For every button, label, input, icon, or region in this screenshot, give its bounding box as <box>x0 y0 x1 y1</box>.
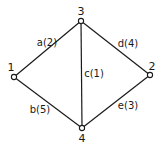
node-3 <box>78 18 83 23</box>
edge-e <box>82 75 150 128</box>
node-1 <box>11 74 16 79</box>
edge-c <box>81 21 82 128</box>
edges-group: a(2)b(5)c(1)d(4)e(3) <box>14 21 150 128</box>
node-2 <box>147 72 152 77</box>
node-label-1: 1 <box>8 61 15 74</box>
node-4 <box>79 125 84 130</box>
edge-label-e: e(3) <box>118 100 138 111</box>
edge-a <box>14 21 81 77</box>
node-label-4: 4 <box>79 132 86 145</box>
node-label-2: 2 <box>149 60 156 73</box>
edge-b <box>14 77 82 128</box>
node-label-3: 3 <box>78 5 85 18</box>
weighted-graph: a(2)b(5)c(1)d(4)e(3) 1234 <box>0 0 162 149</box>
edge-label-b: b(5) <box>30 104 51 115</box>
edge-label-d: d(4) <box>118 38 139 49</box>
edge-label-a: a(2) <box>37 37 57 48</box>
edge-d <box>81 21 150 75</box>
edge-label-c: c(1) <box>84 68 104 79</box>
